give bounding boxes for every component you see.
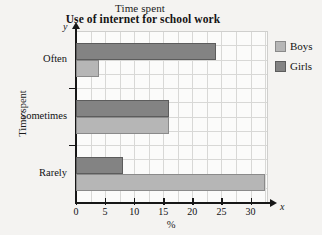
y-axis-category-label: Sometimes <box>0 110 67 121</box>
legend-swatch-icon <box>275 61 286 72</box>
x-axis-tick-label: 15 <box>151 206 175 217</box>
x-axis-tick <box>163 198 164 205</box>
chart-figure: Time spent Use of internet for school wo… <box>0 0 322 235</box>
chart-title: Use of internet for school work <box>0 13 286 25</box>
x-axis-tick-label: 5 <box>93 206 117 217</box>
y-axis-category-label: Often <box>0 53 67 64</box>
bar-boys-sometimes <box>76 117 169 134</box>
x-axis-tick <box>134 198 135 205</box>
x-axis-label: % <box>76 219 266 230</box>
x-axis-tick <box>105 198 106 205</box>
x-axis-tick-label: 30 <box>239 206 263 217</box>
y-axis-letter: y <box>63 21 67 32</box>
x-axis-tick <box>192 198 193 205</box>
bar-girls-rarely <box>76 157 123 174</box>
gridline-horizontal <box>76 145 268 146</box>
legend-item-boys[interactable]: Boys <box>275 40 322 52</box>
legend-item-girls[interactable]: Girls <box>275 60 322 72</box>
gridline-horizontal <box>76 88 268 89</box>
legend-item-label: Boys <box>290 40 313 52</box>
x-axis-tick <box>251 198 252 205</box>
y-axis-tick <box>69 88 76 89</box>
legend-item-label: Girls <box>290 60 312 72</box>
y-axis-tick <box>69 145 76 146</box>
x-axis-tick-label: 20 <box>180 206 204 217</box>
x-axis-tick-label: 0 <box>64 206 88 217</box>
x-axis-tick-label: 10 <box>122 206 146 217</box>
legend: BoysGirls <box>275 40 322 80</box>
x-axis-tick <box>221 198 222 205</box>
x-axis-arrow-icon <box>270 199 277 207</box>
y-axis-arrow-icon <box>72 22 80 29</box>
gridline-horizontal <box>76 74 268 75</box>
bar-girls-sometimes <box>76 100 169 117</box>
y-axis-category-label: Rarely <box>0 167 67 178</box>
bar-girls-often <box>76 43 216 60</box>
x-axis-tick <box>76 198 77 205</box>
x-axis-tick-label: 25 <box>209 206 233 217</box>
bar-boys-often <box>76 60 99 77</box>
legend-swatch-icon <box>275 41 286 52</box>
bar-boys-rarely <box>76 174 265 191</box>
gridline-horizontal <box>76 31 268 32</box>
gridline-horizontal <box>76 60 268 61</box>
x-axis-letter: x <box>280 201 284 212</box>
